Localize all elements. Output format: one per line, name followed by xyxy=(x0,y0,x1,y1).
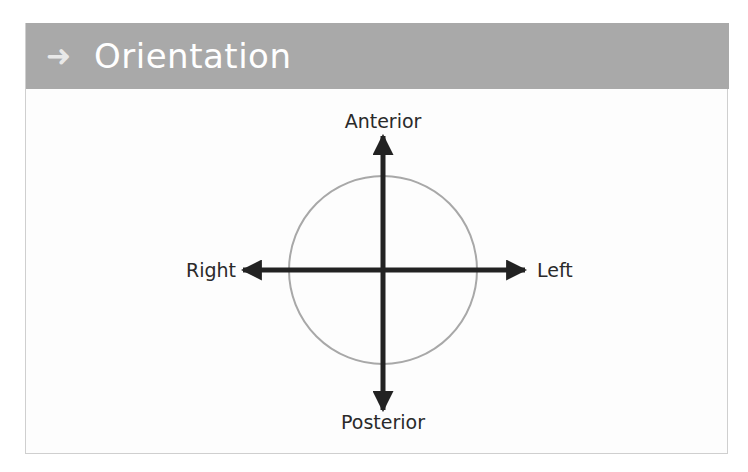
orientation-diagram: Anterior Posterior Right Left xyxy=(0,0,748,472)
label-left: Left xyxy=(537,259,573,281)
label-right: Right xyxy=(186,259,236,281)
label-anterior: Anterior xyxy=(345,110,422,132)
label-posterior: Posterior xyxy=(341,411,425,433)
